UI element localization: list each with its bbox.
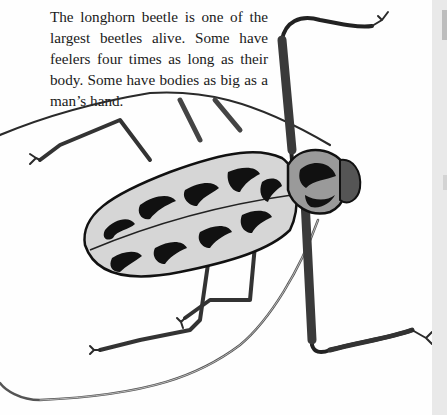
gutter-shadow-lower [443, 175, 447, 190]
gutter-shadow [442, 10, 447, 40]
page-gutter [432, 0, 447, 415]
book-page: The longhorn beetle is one of the larges… [0, 0, 447, 415]
longhorn-beetle-illustration [0, 0, 447, 415]
